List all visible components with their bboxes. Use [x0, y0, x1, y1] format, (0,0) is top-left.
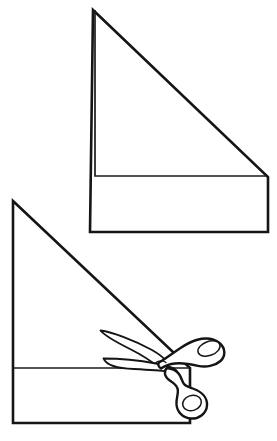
paper-folding-diagram — [0, 0, 277, 441]
